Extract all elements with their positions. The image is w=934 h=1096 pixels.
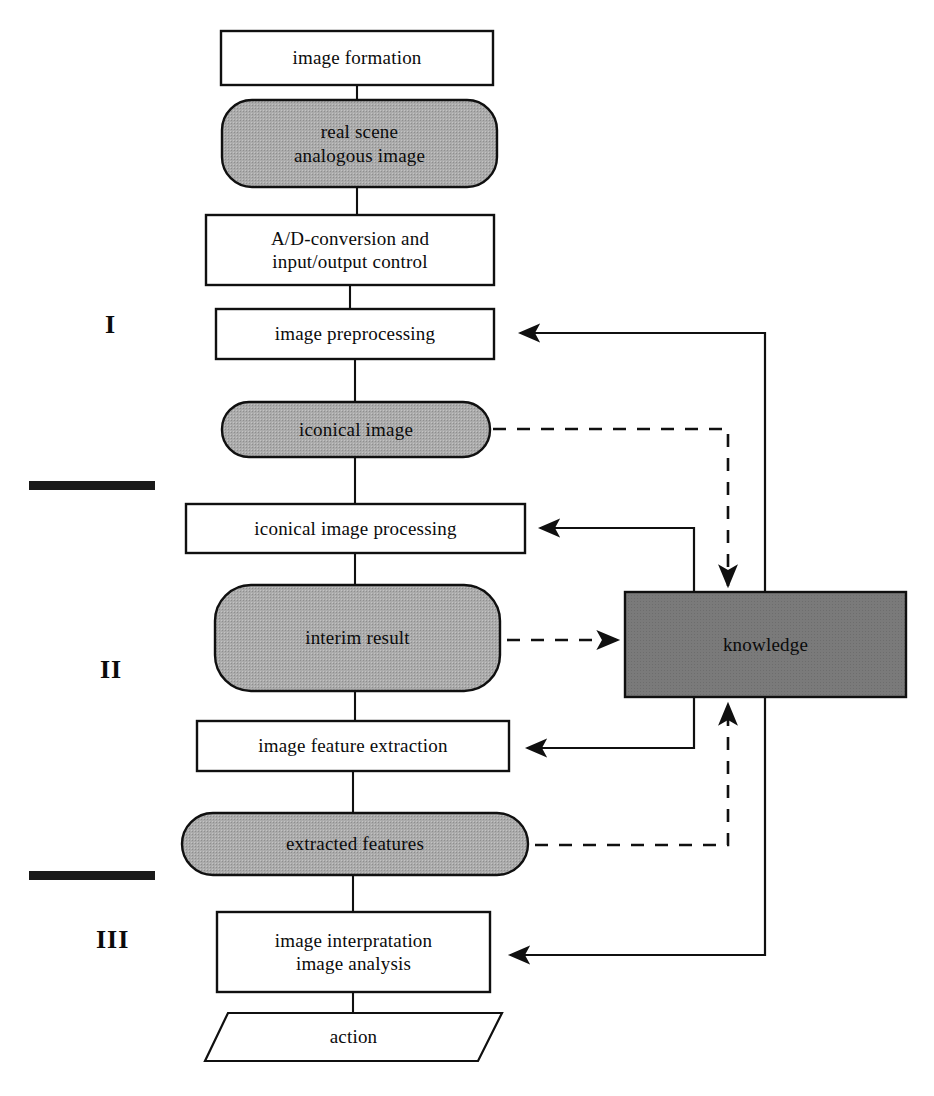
node-extracted-features: [182, 813, 528, 875]
node-ad-conversion: [206, 215, 494, 285]
feedback-knowledge-to-interpret: [510, 697, 765, 955]
node-image-formation: [221, 31, 493, 85]
node-iconical-image-processing: [186, 504, 525, 553]
node-interim-result: [215, 585, 500, 691]
stage-dividers: [29, 481, 155, 880]
node-real-scene-analogous-image: [222, 100, 497, 187]
divider-1: [29, 481, 155, 490]
dashed-iconical-to-knowledge: [493, 429, 728, 586]
node-action: [205, 1013, 502, 1061]
node-knowledge: [625, 592, 906, 697]
flowchart-graphics: [0, 0, 934, 1096]
stage-label-ii: II: [100, 655, 122, 685]
node-iconical-image: [222, 402, 490, 457]
node-image-feature-extraction: [197, 721, 509, 771]
stage-label-iii: III: [96, 925, 129, 955]
feedback-knowledge-to-featureext: [527, 697, 694, 748]
feedback-knowledge-to-iconproc: [540, 528, 694, 592]
node-image-preprocessing: [216, 309, 494, 359]
stage-label-i: I: [105, 310, 116, 340]
flowchart-canvas: image formation real scene analogous ima…: [0, 0, 934, 1096]
node-image-interpretation: [217, 912, 490, 992]
dashed-extracted-to-knowledge: [535, 704, 728, 845]
divider-2: [29, 871, 155, 880]
